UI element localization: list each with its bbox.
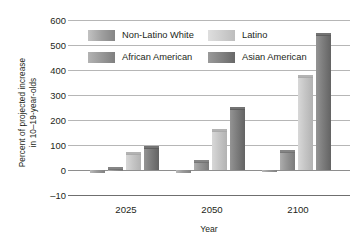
y-tick-label-400: 400	[26, 66, 66, 76]
bar-2050-latino	[212, 131, 227, 170]
y-tick-label-100: 100	[26, 141, 66, 151]
bar-2050-non-latino-white	[176, 170, 191, 173]
gridline-600	[68, 20, 350, 21]
legend-item-non-latino-white: Non-Latino White	[88, 30, 208, 41]
bar-cap	[126, 152, 141, 155]
x-axis-title: Year	[68, 224, 350, 234]
bar-2025-latino	[126, 154, 141, 170]
legend-item-asian-american: Asian American	[208, 52, 307, 63]
bar-face	[194, 162, 209, 170]
legend-swatch-icon-latino	[208, 30, 235, 41]
bar-cap	[144, 146, 159, 149]
legend: Non-Latino White Latino African American…	[88, 24, 313, 68]
y-tick-label-600: 600	[26, 16, 66, 26]
bar-face	[144, 148, 159, 170]
bar-chart: Percent of projected increase in 10–19-y…	[0, 0, 358, 250]
bar-2025-asian-american	[144, 148, 159, 170]
bar-2100-latino	[298, 77, 313, 170]
x-tick-label-2025: 2025	[96, 204, 156, 215]
bar-face	[262, 170, 277, 172]
bar-2050-african-american	[194, 162, 209, 170]
legend-label-african-american: African American	[122, 52, 192, 62]
legend-item-latino: Latino	[208, 30, 267, 41]
bar-2050-asian-american	[230, 109, 245, 170]
y-tick-label-500: 500	[26, 41, 66, 51]
legend-swatch-icon-asian-american	[208, 52, 235, 63]
legend-label-asian-american: Asian American	[242, 52, 307, 62]
bar-face	[316, 35, 331, 170]
bar-cap	[280, 150, 295, 153]
legend-swatch-icon-non-latino-white	[88, 30, 115, 41]
x-tick-label-2050: 2050	[182, 204, 242, 215]
bar-face	[176, 170, 191, 173]
bar-cap	[298, 75, 313, 78]
bar-2100-non-latino-white	[262, 170, 277, 172]
bar-2025-african-american	[108, 169, 123, 171]
legend-label-non-latino-white: Non-Latino White	[122, 30, 194, 40]
legend-item-african-american: African American	[88, 52, 208, 63]
gridline-neg10	[68, 195, 350, 196]
y-tick-label-0: 0	[26, 166, 66, 176]
legend-row-2: African American Asian American	[88, 46, 313, 68]
x-tick-label-2100: 2100	[268, 204, 328, 215]
bar-face	[212, 131, 227, 170]
legend-swatch-icon-african-american	[88, 52, 115, 63]
bar-cap	[316, 33, 331, 36]
bar-2025-non-latino-white	[90, 170, 105, 173]
bar-face	[280, 152, 295, 170]
bar-face	[230, 109, 245, 170]
bar-cap	[108, 167, 123, 170]
bar-cap	[212, 129, 227, 132]
bar-cap	[230, 107, 245, 110]
y-tick-label-300: 300	[26, 91, 66, 101]
bar-face	[126, 154, 141, 170]
bar-face	[90, 170, 105, 173]
y-tick-label-neg10: –10	[26, 191, 66, 201]
y-tick-label-200: 200	[26, 116, 66, 126]
legend-label-latino: Latino	[242, 30, 267, 40]
gridline-400	[68, 70, 350, 71]
bar-face	[298, 77, 313, 170]
bar-cap	[194, 160, 209, 163]
bar-2100-african-american	[280, 152, 295, 170]
legend-row-1: Non-Latino White Latino	[88, 24, 313, 46]
bar-2100-asian-american	[316, 35, 331, 170]
